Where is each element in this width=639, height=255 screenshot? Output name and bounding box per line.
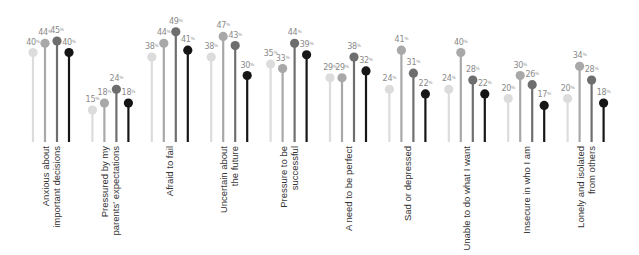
lollipop-chart: 40%44%45%40%Anxious aboutimportant decis… [0,0,639,255]
lollipop-dot [88,105,97,114]
lollipop-dot [266,59,275,68]
value-label: 22% [419,79,434,88]
value-label: 17% [537,90,552,99]
category-group: 20%30%26%17%Insecure in who I am [501,61,552,234]
lollipop-dot [468,76,477,85]
lollipop-dot [40,39,49,48]
category-label: Afraid to fail [164,146,175,196]
lollipop-dot [302,50,311,59]
lollipop-dot [361,66,370,75]
category-label: Anxious aboutimportant decisions [40,146,62,228]
value-label: 32% [359,56,374,65]
value-label: 18% [122,88,137,97]
lollipop-dot [159,39,168,48]
value-label: 30% [240,61,255,70]
value-label: 44% [157,28,172,37]
category-group: 24%40%28%22%Unable to do what I want [442,38,493,251]
lollipop-dot [325,73,334,82]
lollipop-dot [337,73,346,82]
category-group: 40%44%45%40%Anxious aboutimportant decis… [26,26,77,228]
lollipop-dot [409,69,418,78]
lollipop-dot [397,46,406,55]
category-group: 35%33%44%39%Pressure to besuccessful [264,28,315,207]
category-label: A need to be perfect [343,146,354,231]
category-group: 24%41%31%22%Sad or depressed [383,35,434,221]
value-label: 44% [288,28,303,37]
lollipop-dot [207,53,216,62]
lollipop-dot [124,99,133,108]
value-label: 22% [478,79,493,88]
value-label: 43% [228,31,243,40]
category-label: Unable to do what I want [461,146,472,251]
value-label: 41% [395,35,410,44]
value-label: 20% [501,84,516,93]
category-label: Pressure to besuccessful [278,146,300,208]
lollipop-dot [28,48,37,57]
lollipop-dot [100,99,109,108]
lollipop-dot [599,99,608,108]
value-label: 49% [169,17,184,26]
lollipop-dot [278,64,287,73]
value-label: 29% [335,63,350,72]
lollipop-dot [563,94,572,103]
value-label: 24% [383,74,398,83]
lollipop-dot [64,48,73,57]
lollipop-dot [290,39,299,48]
lollipop-dot [219,32,228,41]
value-label: 38% [145,42,160,51]
value-label: 41% [181,35,196,44]
value-label: 18% [597,88,612,97]
category-label: Sad or depressed [402,146,413,221]
value-label: 24% [442,74,457,83]
value-label: 31% [407,58,422,67]
lollipop-dot [587,76,596,85]
lollipop-dot [528,80,537,89]
value-label: 40% [62,38,77,47]
category-label: Lonely and isolatedfrom others [575,146,597,228]
value-label: 34% [573,51,588,60]
category-group: 29%29%38%32%A need to be perfect [323,42,374,231]
category-label: Uncertain aboutthe future [218,146,240,213]
lollipop-dot [147,53,156,62]
value-label: 45% [50,26,65,35]
lollipop-dot [421,89,430,98]
lollipop-dot [231,41,240,50]
value-label: 38% [347,42,362,51]
category-label: Pressured by myparents' expectations [99,146,121,236]
lollipop-dot [456,48,465,57]
lollipop-dot [171,27,180,36]
lollipop-dot [52,36,61,45]
lollipop-dot [480,89,489,98]
lollipop-dot [444,85,453,94]
value-label: 20% [561,84,576,93]
category-group: 38%44%49%41%Afraid to fail [145,17,196,196]
value-label: 38% [204,42,219,51]
lollipop-dot [504,94,513,103]
value-label: 28% [585,65,600,74]
category-label: Insecure in who I am [521,146,532,234]
value-label: 18% [98,88,113,97]
value-label: 33% [276,54,291,63]
lollipop-dot [516,71,525,80]
value-label: 24% [110,74,125,83]
lollipop-dot [349,53,358,62]
value-label: 26% [525,70,540,79]
value-label: 47% [216,21,231,30]
lollipop-dot [575,62,584,71]
value-label: 39% [300,40,315,49]
lollipop-dot [243,71,252,80]
value-label: 30% [513,61,528,70]
lollipop-dot [183,46,192,55]
value-label: 40% [26,38,41,47]
category-group: 20%34%28%18%Lonely and isolatedfrom othe… [561,51,612,228]
lollipop-dot [385,85,394,94]
category-group: 15%18%24%18%Pressured by myparents' expe… [86,74,137,235]
lollipop-dot [540,101,549,110]
category-group: 38%47%43%30%Uncertain aboutthe future [204,21,255,213]
value-label: 40% [454,38,469,47]
value-label: 28% [466,65,481,74]
lollipop-dot [112,85,121,94]
